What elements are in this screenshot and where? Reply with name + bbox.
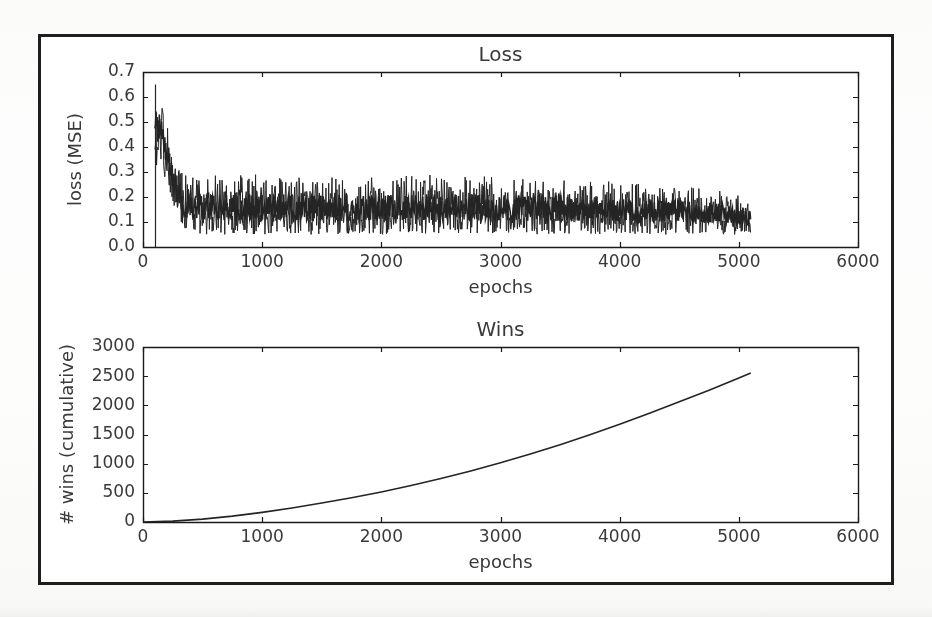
training-metrics-figure [38,34,894,585]
loss-chart-title: Loss [0,0,1,1]
wins-chart-ylabel: # wins (cumulative) [0,0,1,1]
loss-chart-xlabel: epochs [0,0,1,1]
screenshot-page: Loss epochs loss (MSE) Wins epochs # win… [0,0,932,617]
scan-bottom-shadow [0,607,932,617]
loss-chart-ylabel: loss (MSE) [0,0,1,1]
wins-chart-xlabel: epochs [0,0,1,1]
wins-chart-title: Wins [0,0,1,1]
